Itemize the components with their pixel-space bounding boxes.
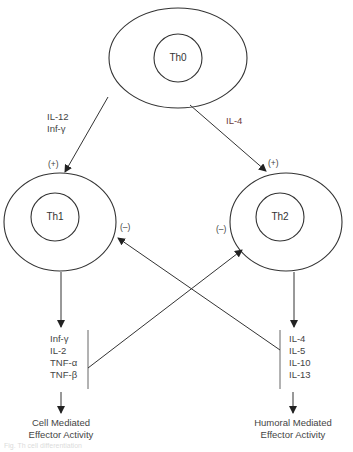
th1-outcome: Cell Mediated Effector Activity <box>11 417 111 441</box>
th1-minus-sign: (–) <box>120 222 130 232</box>
th1-cytokine-list: Inf-γ IL-2 TNF-α TNF-β <box>50 333 77 381</box>
outcome-line: Effector Activity <box>238 429 348 441</box>
th2-outcome: Humoral Mediated Effector Activity <box>238 417 348 441</box>
diagram-canvas <box>0 0 353 452</box>
inhibit-th1-cytokines-to-th2 <box>88 250 242 368</box>
outcome-line: Humoral Mediated <box>238 417 348 429</box>
th1-plus-sign: (+) <box>48 159 59 169</box>
cytokine-item: IL-5 <box>289 345 311 357</box>
th2-label: Th2 <box>260 211 300 222</box>
th2-outer-ellipse <box>230 173 342 271</box>
cytokine-item: TNF-α <box>50 357 77 369</box>
cytokine-item: IL-4 <box>289 333 311 345</box>
th0-th2-signal-label: IL-4 <box>226 115 242 127</box>
cytokine-item: Inf-γ <box>50 333 77 345</box>
th2-plus-sign: (+) <box>268 158 279 168</box>
th0-label: Th0 <box>158 52 198 63</box>
arrow-th0-to-th1 <box>65 97 108 172</box>
th2-minus-sign: (–) <box>216 224 226 234</box>
cytokine-item: IL-13 <box>289 369 311 381</box>
signal-inf-gamma: Inf-γ <box>47 123 69 135</box>
inhibit-th2-cytokines-to-th1 <box>118 238 280 350</box>
cytokine-item: TNF-β <box>50 369 77 381</box>
cytokine-item: IL-2 <box>50 345 77 357</box>
figure-caption: Fig. Th cell differentiation <box>4 442 82 449</box>
th0-th1-signal-labels: IL-12 Inf-γ <box>47 111 69 135</box>
th1-outer-ellipse <box>4 173 116 271</box>
th1-label: Th1 <box>35 211 75 222</box>
cytokine-item: IL-10 <box>289 357 311 369</box>
signal-il12: IL-12 <box>47 111 69 123</box>
outcome-line: Cell Mediated <box>11 417 111 429</box>
outcome-line: Effector Activity <box>11 429 111 441</box>
th2-cytokine-list: IL-4 IL-5 IL-10 IL-13 <box>289 333 311 381</box>
